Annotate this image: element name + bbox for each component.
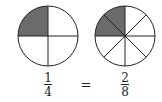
fraction-right-denominator: 8 bbox=[115, 86, 135, 98]
fraction-left: 1 4 bbox=[38, 72, 58, 98]
center-dot bbox=[124, 35, 126, 37]
equals-sign: = bbox=[79, 78, 93, 91]
fraction-left-numerator: 1 bbox=[38, 72, 58, 84]
fraction-left-denominator: 4 bbox=[38, 86, 58, 98]
fraction-right: 2 8 bbox=[115, 72, 135, 98]
circle-quarters bbox=[18, 6, 78, 66]
circle-eighths bbox=[95, 6, 155, 66]
fraction-right-numerator: 2 bbox=[115, 72, 135, 84]
